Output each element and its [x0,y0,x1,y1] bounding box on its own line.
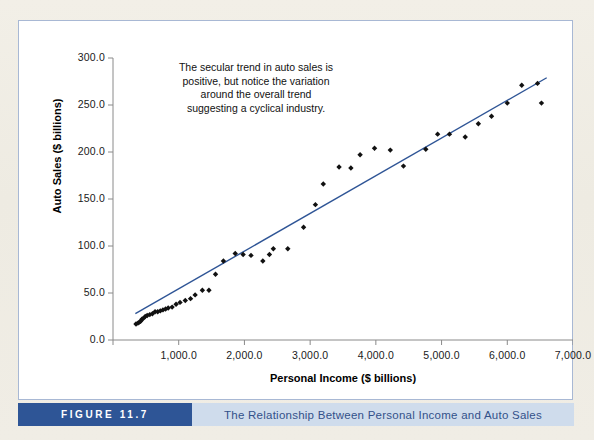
y-tick-label: 250.0 [57,98,105,110]
data-point [183,298,188,303]
data-point [489,114,494,119]
data-point [200,287,205,292]
data-point [401,163,406,168]
data-point [313,202,318,207]
data-point [213,272,218,277]
figure-caption-bar: FIGURE 11.7 The Relationship Between Per… [18,403,574,426]
data-point [188,296,193,301]
data-point [476,121,481,126]
y-tick-label: 100.0 [57,239,105,251]
data-point [260,258,265,263]
annotation-line-1: The secular trend in auto sales is [150,61,362,75]
x-tick-label: 2,000.0 [209,349,279,361]
x-tick-label: 3,000.0 [275,349,345,361]
figure-caption-text: The Relationship Between Personal Income… [224,409,542,421]
y-axis-title: Auto Sales ($ billions) [51,66,63,246]
x-tick-label: 1,000.0 [144,349,214,361]
figure-number-box: FIGURE 11.7 [18,403,192,426]
data-point [388,147,393,152]
data-point [423,146,428,151]
data-point [192,292,197,297]
data-point [348,165,353,170]
annotation-line-2: positive, but notice the variation [150,75,362,89]
data-point [267,252,272,257]
annotation-line-3: around the overall trend [150,88,362,102]
y-tick-label: 300.0 [57,51,105,63]
x-tick-label: 4,000.0 [341,349,411,361]
data-point [301,225,306,230]
data-points [133,81,544,327]
data-point [248,253,253,258]
figure-number-label: FIGURE 11.7 [61,409,149,420]
data-point [463,134,468,139]
chart-annotation: The secular trend in auto sales is posit… [150,61,362,115]
data-point [321,181,326,186]
data-point [357,152,362,157]
x-tick-label: 7,000.0 [538,349,594,361]
x-tick-label: 6,000.0 [472,349,542,361]
data-point [372,146,377,151]
data-point [271,246,276,251]
data-point [206,287,211,292]
annotation-line-4: suggesting a cyclical industry. [150,102,362,116]
y-tick-label: 200.0 [57,145,105,157]
y-tick-label: 50.0 [57,286,105,298]
data-point [221,258,226,263]
x-tick-label: 5,000.0 [407,349,477,361]
y-tick-label: 150.0 [57,192,105,204]
data-point [539,100,544,105]
x-axis-title: Personal Income ($ billions) [113,372,573,384]
data-point [285,246,290,251]
y-tick-label: 0.0 [57,333,105,345]
figure-caption-box: The Relationship Between Personal Income… [192,403,574,426]
data-point [169,304,174,309]
data-point [336,164,341,169]
figure-container: 1,000.02,000.03,000.04,000.05,000.06,000… [0,0,594,440]
data-point [435,131,440,136]
data-point [519,83,524,88]
